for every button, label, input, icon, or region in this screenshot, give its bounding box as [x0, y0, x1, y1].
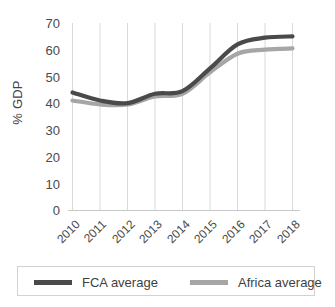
- legend-label-fca-average: FCA average: [82, 275, 158, 290]
- legend-label-africa-average: Africa average: [238, 275, 322, 290]
- plot-canvas: [0, 0, 335, 258]
- chart-legend: FCA average Africa average: [17, 266, 315, 296]
- legend-swatch-fca-average: [34, 280, 72, 285]
- legend-swatch-africa-average: [190, 280, 228, 285]
- legend-item-fca-average[interactable]: FCA average: [34, 267, 158, 297]
- line-chart-figure: % GDP 70 60 50 40 30 20 10 0: [0, 0, 335, 307]
- legend-item-africa-average[interactable]: Africa average: [190, 267, 322, 297]
- plot-region: % GDP 70 60 50 40 30 20 10 0: [0, 0, 335, 258]
